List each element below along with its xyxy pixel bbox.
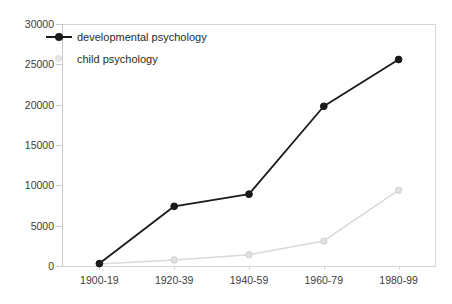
legend-swatch-icon xyxy=(46,53,72,65)
x-axis-tick-label: 1900-19 xyxy=(59,275,139,286)
x-axis-tick xyxy=(174,266,175,270)
y-axis-tick-label: 5000 xyxy=(2,221,54,232)
y-axis-tick-label: 15000 xyxy=(2,140,54,151)
x-axis-tick-label: 1920-39 xyxy=(134,275,214,286)
legend-item[interactable]: developmental psychology xyxy=(46,26,246,48)
y-axis-tick xyxy=(56,226,62,227)
x-axis-tick xyxy=(249,266,250,270)
y-axis-tick-label: 10000 xyxy=(2,180,54,191)
y-axis-tick xyxy=(56,185,62,186)
legend-marker-icon xyxy=(55,33,63,41)
legend-marker-icon xyxy=(55,55,62,62)
legend-swatch-icon xyxy=(46,31,72,43)
legend-item-label: child psychology xyxy=(77,54,158,65)
y-axis-tick xyxy=(56,266,62,267)
y-axis-tick-label: 0 xyxy=(2,261,54,272)
x-axis-tick xyxy=(399,266,400,270)
x-axis-tick xyxy=(99,266,100,270)
y-axis-tick-label: 20000 xyxy=(2,100,54,111)
chart-legend: developmental psychologychild psychology xyxy=(46,26,246,70)
x-axis-tick-label: 1960-79 xyxy=(284,275,364,286)
x-axis-tick-label: 1980-99 xyxy=(359,275,439,286)
y-axis-tick xyxy=(56,24,62,25)
line-chart: 050001000015000200002500030000 1900-1919… xyxy=(0,0,452,304)
y-axis-tick xyxy=(56,145,62,146)
legend-item-label: developmental psychology xyxy=(77,32,207,43)
y-axis-tick xyxy=(56,105,62,106)
legend-item[interactable]: child psychology xyxy=(46,48,246,70)
x-axis-tick xyxy=(324,266,325,270)
x-axis-tick-label: 1940-59 xyxy=(209,275,289,286)
